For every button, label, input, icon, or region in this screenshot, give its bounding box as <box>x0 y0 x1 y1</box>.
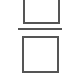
fraction-bar <box>18 28 62 30</box>
numerator-box <box>23 0 60 24</box>
denominator-box <box>22 36 59 73</box>
